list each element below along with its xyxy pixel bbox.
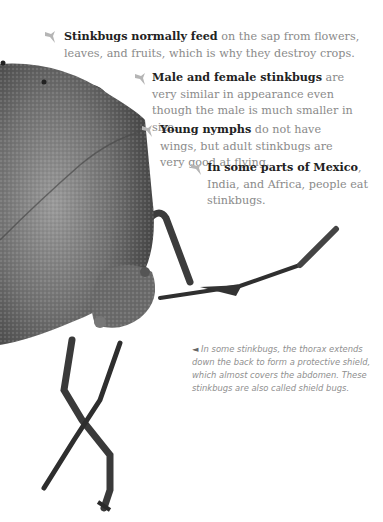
photo-caption: ◄ In some stinkbugs, the thorax extends … (192, 343, 382, 395)
stinkbug-bullet-icon (134, 72, 148, 86)
caption-text: In some stinkbugs, the thorax extends do… (192, 344, 370, 393)
fact-edible: In some parts of Mexico, India, and Afri… (207, 159, 372, 210)
fact-feeding: Stinkbugs normally feed on the sap from … (64, 28, 364, 62)
stinkbug-bullet-icon (44, 30, 58, 44)
fact-nymphs-heading: Young nymphs (160, 122, 251, 136)
fact-male-female-heading: Male and female stinkbugs (152, 70, 322, 84)
stinkbug-bullet-icon (141, 124, 155, 138)
fact-edible-heading: In some parts of Mexico (207, 160, 358, 174)
stinkbug-bullet-icon (190, 162, 204, 176)
fact-feeding-heading: Stinkbugs normally feed (64, 29, 218, 43)
